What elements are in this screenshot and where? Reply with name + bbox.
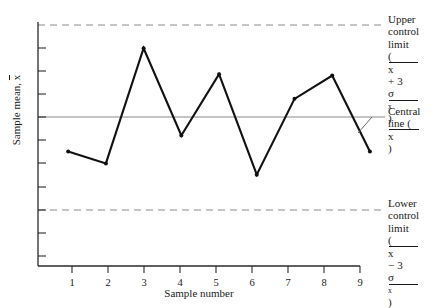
central-line-annotation: Central line (x) [388, 105, 420, 155]
data-point [368, 149, 372, 153]
data-series [66, 46, 372, 176]
lcl-line-3: limit [388, 222, 419, 234]
series-markers [66, 46, 372, 176]
y-axis-title: Sample mean, x [10, 50, 22, 170]
y-axis [38, 22, 46, 266]
chart-canvas: 1 2 3 4 5 6 7 8 9 [0, 0, 433, 308]
data-point [179, 133, 183, 137]
central-line-2: line (x) [388, 117, 420, 154]
ucl-line-2: control [388, 25, 419, 37]
y-axis-ticks [38, 48, 46, 256]
data-point [330, 74, 334, 78]
ucl-line-3: limit [388, 38, 419, 50]
annotation-leader-lines [358, 117, 372, 133]
control-chart: 1 2 3 4 5 6 7 8 9 Sample mean, x Sample … [0, 0, 433, 308]
series-line [68, 48, 370, 174]
lcl-line-1: Lower [388, 197, 419, 209]
data-point [66, 149, 70, 153]
lcl-formula: (x − 3σx) [388, 234, 419, 308]
x-axis-ticks [72, 266, 360, 273]
data-point [217, 72, 221, 76]
x-axis: 1 2 3 4 5 6 7 8 9 [38, 266, 363, 288]
control-limit-lines [38, 25, 385, 210]
central-line-1: Central [388, 105, 420, 117]
data-point [104, 161, 108, 165]
lcl-line-2: control [388, 209, 419, 221]
x-axis-title: Sample number [38, 287, 360, 299]
lower-control-limit-annotation: Lower control limit (x − 3σx) [388, 197, 419, 308]
data-point [292, 97, 296, 101]
ucl-line-1: Upper [388, 13, 419, 25]
data-point [142, 46, 146, 50]
data-point [255, 173, 259, 177]
central-line-leader [358, 117, 372, 133]
